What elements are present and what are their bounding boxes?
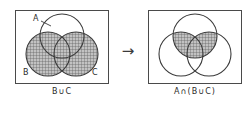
panel-right-a-inter-bunionc — [148, 10, 242, 84]
set-label-b: B — [23, 69, 29, 77]
set-label-c: C — [92, 69, 98, 77]
venn-diagram-right — [148, 10, 242, 84]
caption-right: A∩(B∪C) — [148, 88, 242, 96]
implies-arrow-icon: → — [113, 43, 143, 59]
caption-left: B∪C — [15, 88, 109, 96]
venn-figure: A B C → B∪C A∩(B∪ — [0, 0, 250, 115]
region-a-inter-bunionc-shaded — [159, 32, 231, 76]
set-label-a: A — [33, 15, 38, 23]
panel-left-bunionc: A B C — [15, 10, 109, 84]
